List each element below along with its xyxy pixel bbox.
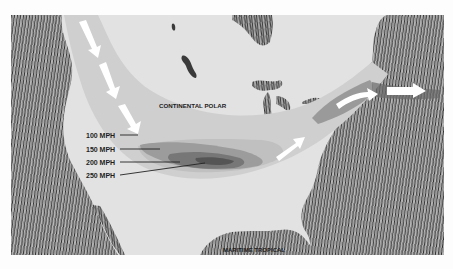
jet-stream-map: 100 MPH 150 MPH 200 MPH 250 MPH CONTINEN… xyxy=(0,0,453,269)
label-maritime-tropical: MARITIME TROPICAL xyxy=(223,247,285,253)
legend-150mph: 150 MPH xyxy=(86,146,115,153)
legend-250mph: 250 MPH xyxy=(86,172,115,179)
label-continental-polar: CONTINENTAL POLAR xyxy=(159,102,227,109)
legend-200mph: 200 MPH xyxy=(86,159,115,166)
legend-100mph: 100 MPH xyxy=(86,132,115,139)
